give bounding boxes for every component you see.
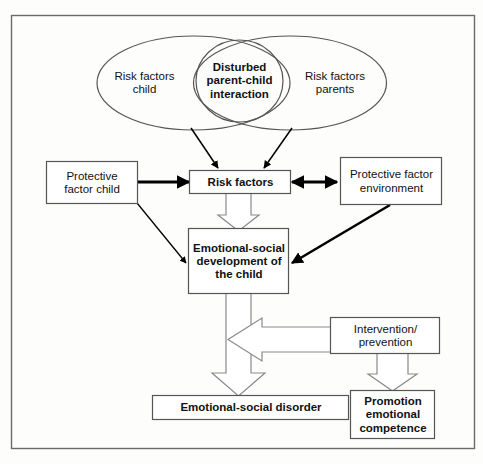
diagram-canvas: Risk factors child Disturbed parent-chil… [0, 0, 483, 464]
block-arrow-risk-factors-to-development [218, 193, 259, 231]
box-risk-factors[interactable] [190, 171, 291, 194]
block-arrow-intervention-to-promotion [368, 353, 417, 391]
arrow-protective-child-to-development [137, 203, 186, 263]
box-promotion-emotional-competence[interactable] [351, 391, 435, 439]
arrow-protective-environment-to-development [292, 205, 390, 263]
box-protective-child[interactable] [47, 162, 138, 204]
venn-center-circle [196, 40, 283, 122]
box-emotional-social-development[interactable] [189, 229, 289, 294]
box-emotional-social-disorder[interactable] [153, 396, 349, 420]
arrow-right-ellipse-to-risk-factors [264, 128, 292, 168]
box-intervention[interactable] [331, 318, 440, 354]
box-protective-environment[interactable] [341, 158, 442, 205]
diagram-vector-layer [0, 0, 483, 464]
arrow-left-ellipse-to-risk-factors [191, 128, 218, 168]
